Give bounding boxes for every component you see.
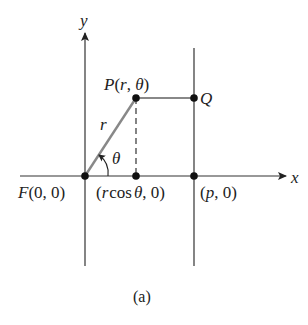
label-p: P(r, θ) [103,75,149,94]
label-f: F(0, 0) [17,183,65,202]
label-q: Q [200,89,212,108]
figure-caption: (a) [133,288,151,306]
label-radius: r [100,115,107,134]
point-f [81,172,89,180]
y-axis-label: y [78,11,88,30]
point-foot [132,172,140,180]
point-q [190,94,198,102]
point-p [132,94,140,102]
x-axis-label: x [290,168,299,187]
label-foot: (rcosθ, 0) [96,183,165,202]
angle-arc [99,155,108,176]
radius-segment [85,98,136,176]
point-directrix [190,172,198,180]
label-angle: θ [112,149,120,168]
label-directrix-point: (p, 0) [200,183,237,202]
polar-conic-diagram: y x P(r, θ) Q r θ F(0, 0) (rcosθ, 0) (p,… [0,0,308,325]
